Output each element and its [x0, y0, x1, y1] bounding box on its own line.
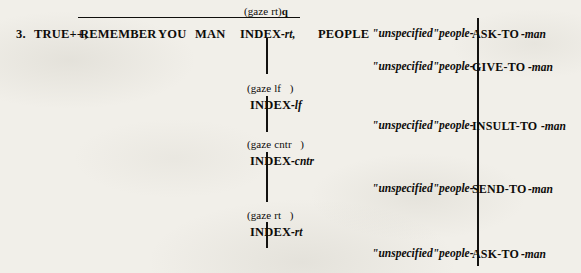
verb-object-4: -man [528, 184, 553, 196]
example-number: 3. [16, 28, 26, 41]
gloss-index-main: INDEX [240, 28, 281, 41]
locus-subscript-lf: -lf [291, 100, 302, 112]
verb-object-2: -man [528, 62, 553, 74]
locus-subscript-rt: -rt [291, 227, 303, 239]
role-label-4: "unspecified"people- [372, 183, 474, 195]
verb-stem-2: GIVE-TO [472, 61, 525, 73]
question-marker-q: q [282, 5, 288, 17]
right-connector-spine [477, 18, 479, 266]
locus-subscript-cntr: -cntr [291, 156, 314, 168]
role-label-5: "unspecified"people- [372, 248, 474, 260]
role-label-3: "unspecified"people- [372, 120, 474, 132]
verb-stem-1: ASK-TO [472, 28, 519, 40]
gaze-marker-rt: (gaze rt ) [247, 210, 293, 221]
verb-object-3: -man [541, 121, 566, 133]
verb-object-5: -man [521, 249, 546, 261]
verb-stem-3: INSULT-TO [472, 120, 537, 132]
nonmanual-marker-gaze-rt-q: (gaze rt)q [244, 6, 288, 17]
gloss-index-cntr: INDEX [250, 155, 291, 168]
gloss-remember: REMEMBER [80, 28, 157, 41]
gaze-marker-cntr: (gaze cntr ) [247, 139, 304, 150]
gaze-marker-lf: (gaze lf ) [247, 83, 293, 94]
gloss-people: PEOPLE [318, 28, 369, 41]
nonmanual-scope-overline [78, 17, 300, 18]
role-label-1: "unspecified"people- [372, 28, 474, 40]
gloss-man: MAN [195, 28, 225, 41]
gloss-you: YOU [158, 28, 186, 41]
nonmanual-marker-text: (gaze rt) [244, 5, 282, 17]
verb-stem-4: SEND-TO [472, 183, 527, 195]
locus-subscript-main: -rt, [281, 29, 295, 41]
role-label-2: "unspecified"people- [372, 61, 474, 73]
connector-segment-1 [266, 38, 268, 74]
verb-object-1: -man [521, 29, 546, 41]
gloss-index-lf: INDEX [250, 99, 291, 112]
figure-canvas: 3. TRUE++, REMEMBER YOU MAN INDEX -rt, P… [0, 0, 581, 273]
verb-stem-5: ASK-TO [472, 248, 519, 260]
gloss-index-rt: INDEX [250, 226, 291, 239]
